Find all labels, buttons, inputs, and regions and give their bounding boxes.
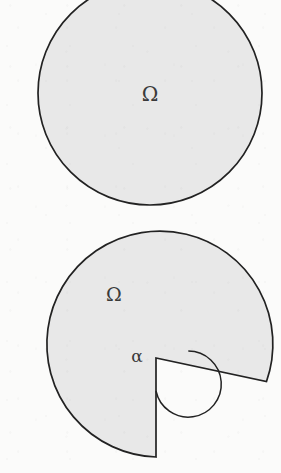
- figure-sheet: Ω Ω α: [0, 0, 281, 473]
- reentrant-disk-omega-label: Ω: [106, 283, 122, 305]
- figure-reentrant-disk: Ω α: [47, 231, 273, 457]
- reentrant-disk-shape: [47, 231, 273, 457]
- figure-full-disk: Ω: [38, 0, 262, 205]
- figures-canvas: Ω Ω α: [0, 0, 281, 473]
- angle-alpha-label: α: [131, 346, 143, 366]
- full-disk-omega-label: Ω: [142, 82, 159, 106]
